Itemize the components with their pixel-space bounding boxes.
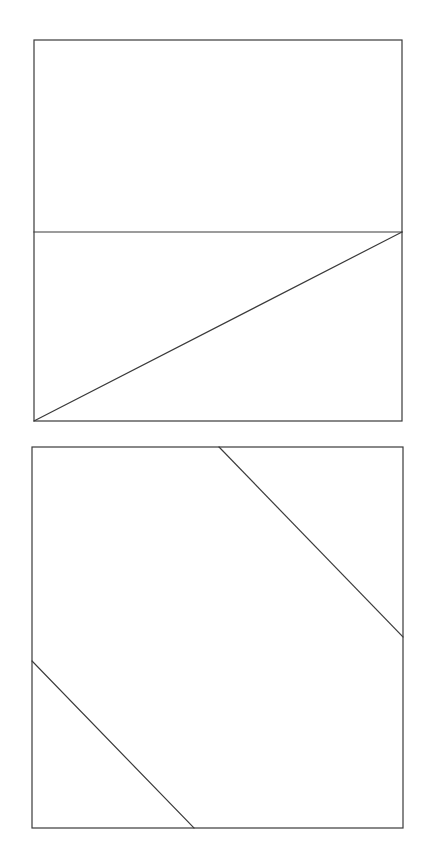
- diagram-canvas: [0, 0, 428, 866]
- bottom-square-figure: [32, 447, 403, 828]
- bottom-square-upper-right-diagonal: [219, 447, 403, 637]
- bottom-square-lower-left-diagonal: [32, 661, 194, 828]
- top-square-diagonal: [34, 232, 402, 421]
- top-square-outline: [34, 40, 402, 421]
- bottom-square-outline: [32, 447, 403, 828]
- top-square-figure: [34, 40, 402, 421]
